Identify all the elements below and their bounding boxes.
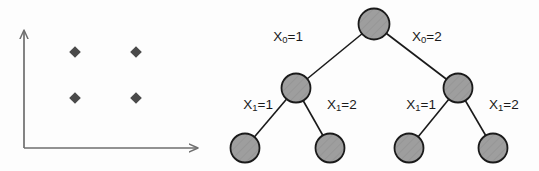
scatter-point-marker — [130, 92, 142, 104]
tree-node-leaf-1[interactable] — [231, 134, 260, 163]
scatter-point-marker — [69, 92, 81, 104]
tree-node-leaf-3[interactable] — [395, 134, 424, 163]
tree-node-root[interactable] — [359, 9, 390, 40]
scatter-point-marker — [69, 46, 81, 58]
tree-edge-labels: X0=1 X0=2 X1=1 X1=2 X1=1 X1=2 — [243, 29, 518, 113]
edge-label-root-left: X0=1 — [273, 29, 303, 45]
edge-label-root-right: X0=2 — [412, 29, 442, 45]
edge-label-internal-right-right: X1=2 — [489, 97, 519, 113]
tree-node-internal-right[interactable] — [444, 74, 473, 103]
tree-node-leaf-4[interactable] — [479, 134, 508, 163]
tree-node-leaf-2[interactable] — [316, 134, 345, 163]
scatter-points — [69, 46, 142, 104]
tree-nodes — [231, 9, 508, 163]
scatter-point-marker — [130, 46, 142, 58]
figure-svg: X0=1 X0=2 X1=1 X1=2 X1=1 X1=2 — [0, 0, 539, 171]
decision-tree: X0=1 X0=2 X1=1 X1=2 X1=1 X1=2 — [231, 9, 519, 163]
edge-label-internal-left-left: X1=1 — [243, 97, 273, 113]
tree-node-internal-left[interactable] — [282, 74, 311, 103]
scatter-plot — [24, 31, 197, 148]
edge-label-internal-right-left: X1=1 — [406, 97, 436, 113]
figure-canvas: X0=1 X0=2 X1=1 X1=2 X1=1 X1=2 — [0, 0, 539, 171]
edge-label-internal-left-right: X1=2 — [327, 97, 357, 113]
